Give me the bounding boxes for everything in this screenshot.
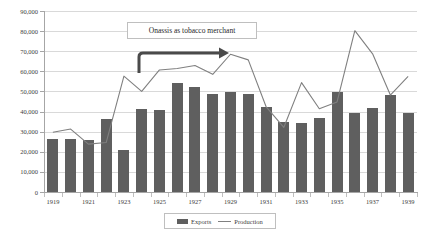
annotation-arrow-shaft bbox=[139, 53, 220, 73]
legend-bar-swatch-icon bbox=[177, 219, 188, 224]
legend-line-swatch-icon bbox=[218, 221, 231, 222]
annotation-arrow-head bbox=[219, 48, 229, 59]
legend-item-production: Production bbox=[218, 218, 263, 225]
annotation-callout-label: Onassis as tobacco merchant bbox=[149, 26, 235, 35]
annotation-callout: Onassis as tobacco merchant bbox=[127, 22, 257, 39]
legend-label-production: Production bbox=[234, 218, 263, 225]
legend-item-exports: Exports bbox=[177, 218, 211, 225]
chart-container: 010,00020,00030,00040,00050,00060,00070,… bbox=[0, 0, 429, 243]
chart-legend: Exports Production bbox=[164, 213, 276, 229]
legend-label-exports: Exports bbox=[191, 218, 211, 225]
